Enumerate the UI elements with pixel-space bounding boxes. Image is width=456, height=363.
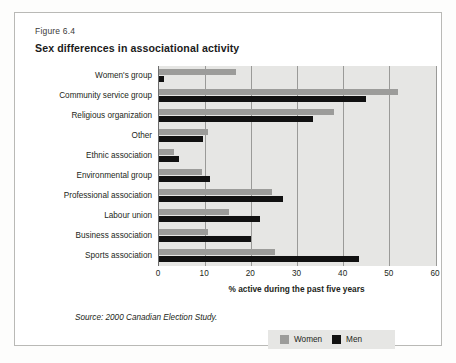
x-tick-20: 20 [246,269,255,278]
bar-group [159,146,436,166]
legend-swatch-women-icon [280,335,289,344]
bar-group [159,186,436,206]
bar-men [159,116,313,122]
bar-men [159,136,203,142]
legend-label-men: Men [346,335,362,344]
category-label: Community service group [0,91,152,100]
plot-area [158,66,436,266]
bar-men [159,216,260,222]
x-tick-60: 60 [430,269,439,278]
bar-women [159,229,208,235]
bar-group [159,226,436,246]
bar-women [159,69,236,75]
legend-item-men: Men [332,335,362,344]
x-tick-0: 0 [156,269,161,278]
legend-label-women: Women [294,335,322,344]
source-note: Source: 2000 Canadian Election Study. [75,313,217,322]
bar-group [159,166,436,186]
bar-men [159,256,359,262]
bar-group [159,66,436,86]
bar-men [159,96,366,102]
category-label: Business association [0,231,152,240]
bar-women [159,169,202,175]
bar-chart: Women's groupCommunity service groupReli… [29,66,429,281]
figure-number: Figure 6.4 [35,26,75,36]
bar-men [159,196,283,202]
x-tick-50: 50 [384,269,393,278]
category-label: Sports association [0,251,152,260]
x-tick-30: 30 [292,269,301,278]
bar-group [159,246,436,266]
x-axis-title: % active during the past five years [158,284,435,294]
category-label: Women's group [0,71,152,80]
bar-group [159,86,436,106]
legend-swatch-men-icon [332,335,341,344]
category-label: Religious organization [0,111,152,120]
x-tick-10: 10 [200,269,209,278]
bar-group [159,106,436,126]
chart-legend: Women Men [268,330,395,349]
bar-men [159,236,251,242]
bar-women [159,189,272,195]
legend-item-women: Women [280,335,322,344]
category-label: Other [0,131,152,140]
bar-group [159,206,436,226]
bar-group [159,126,436,146]
bar-women [159,209,229,215]
bar-women [159,149,174,155]
bar-men [159,76,164,82]
bar-women [159,109,334,115]
category-label: Labour union [0,211,152,220]
category-label: Professional association [0,191,152,200]
bar-men [159,156,179,162]
bar-women [159,129,208,135]
source-text: Source: 2000 Canadian Election Study. [75,313,217,322]
bar-women [159,249,275,255]
bar-women [159,89,398,95]
category-label: Ethnic association [0,151,152,160]
figure-frame: Figure 6.4 Sex differences in associatio… [14,12,442,346]
figure-page: Figure 6.4 Sex differences in associatio… [0,0,456,363]
bar-men [159,176,210,182]
category-label: Environmental group [0,171,152,180]
figure-title: Sex differences in associational activit… [35,42,239,54]
x-tick-40: 40 [338,269,347,278]
